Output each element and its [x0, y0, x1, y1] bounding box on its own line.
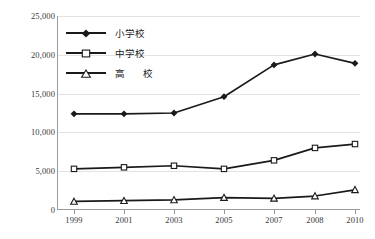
- data-point-marker: [312, 51, 319, 58]
- legend-marker-filled-diamond-icon: [66, 27, 106, 39]
- series-2: [71, 141, 357, 171]
- legend-item-chugakko: 中学校: [66, 46, 157, 59]
- legend-item-koko: 高 校: [66, 66, 157, 79]
- data-point-marker: [71, 166, 76, 171]
- chart-legend: 小学校 中学校 高 校: [66, 26, 157, 79]
- data-point-marker: [71, 110, 78, 117]
- line-chart: 25,000 20,000 15,000 10,000 5,000 0 1999…: [0, 0, 375, 239]
- data-point-marker: [171, 110, 178, 117]
- data-point-marker: [121, 110, 128, 117]
- data-point-marker: [271, 158, 276, 163]
- data-series-layer: [0, 0, 375, 239]
- legend-marker-open-square-icon: [66, 47, 106, 59]
- series-3: [71, 187, 359, 205]
- data-point-marker: [352, 141, 357, 146]
- legend-item-shogakko: 小学校: [66, 26, 157, 39]
- data-point-marker: [221, 166, 226, 171]
- legend-label-chugakko: 中学校: [115, 46, 146, 60]
- data-point-marker: [121, 165, 126, 170]
- data-point-marker: [171, 163, 176, 168]
- legend-label-shogakko: 小学校: [115, 26, 146, 40]
- legend-marker-open-triangle-icon: [66, 67, 106, 79]
- legend-label-koko: 高 校: [115, 66, 157, 80]
- data-point-marker: [352, 60, 359, 67]
- data-point-marker: [312, 145, 317, 150]
